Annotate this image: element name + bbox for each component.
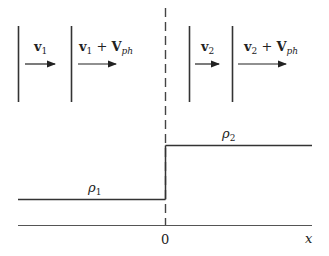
label-rho2-sub: 2 [230, 133, 236, 143]
label-v2-sub: 2 [209, 46, 215, 56]
label-plus: + [257, 39, 276, 54]
label-vph-sub: ph [287, 46, 299, 56]
label-vph-main: V [276, 39, 286, 54]
label-v2: v2 [201, 40, 214, 56]
label-rho2-main: ρ [222, 126, 230, 141]
label-rho2: ρ2 [222, 127, 235, 143]
label-v1: v1 [34, 40, 47, 56]
label-v2-vph-main: v [244, 39, 252, 54]
label-v2-plus-vph: v2 + Vph [244, 40, 298, 56]
axis-origin-label: 0 [161, 233, 169, 246]
label-v1-vph-main: v [79, 39, 87, 54]
label-v1-plus-vph: v1 + Vph [79, 40, 133, 56]
shock-wave-diagram: v1 v1 + Vph v2 v2 + Vph ρ1 ρ2 0 x [0, 0, 329, 256]
label-vph-main: V [111, 39, 121, 54]
axis-x-label: x [305, 232, 312, 245]
label-rho1: ρ1 [88, 181, 101, 197]
label-v1-sub: 1 [42, 46, 48, 56]
label-v1-main: v [34, 39, 42, 54]
label-rho1-main: ρ [88, 180, 96, 195]
label-v2-main: v [201, 39, 209, 54]
label-vph-sub: ph [122, 46, 134, 56]
label-plus: + [92, 39, 111, 54]
label-rho1-sub: 1 [96, 187, 102, 197]
